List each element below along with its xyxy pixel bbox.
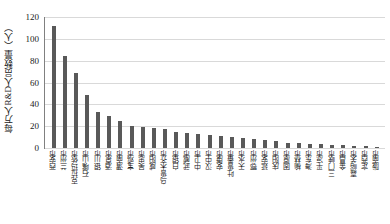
x-label-slot: 延安市 — [260, 150, 271, 224]
x-label-slot: 陇南市 — [371, 150, 382, 224]
bar[interactable] — [208, 135, 212, 148]
bar-slot — [193, 17, 204, 148]
bar[interactable] — [308, 144, 312, 148]
y-axis-tick-label: 20 — [30, 122, 39, 131]
bar-slot — [159, 17, 170, 148]
bar[interactable] — [241, 138, 245, 148]
x-label-slot: 克拉玛依市 — [70, 150, 81, 224]
bar[interactable] — [263, 140, 267, 148]
x-label-slot: 宝鸡市 — [126, 150, 137, 224]
x-axis-tick-label: 陇南市 — [373, 150, 380, 170]
x-axis-tick-label: 吐鲁番市 — [228, 150, 235, 177]
x-label-slot: 白银市 — [171, 150, 182, 224]
bar[interactable] — [152, 128, 156, 148]
bar-slot — [104, 17, 115, 148]
bar[interactable] — [163, 129, 167, 148]
bar[interactable] — [96, 112, 100, 148]
x-label-slot: 汉中市 — [204, 150, 215, 224]
x-axis-tick-label: 安康市 — [217, 150, 224, 170]
x-label-slot: 定西市 — [360, 150, 371, 224]
bar-slot — [349, 17, 360, 148]
y-axis-tick-label: 120 — [26, 13, 40, 22]
x-axis-tick-label: 宝鸡市 — [128, 150, 135, 170]
bar-slot — [204, 17, 215, 148]
bar-slot — [304, 17, 315, 148]
y-axis-tick-label: 60 — [30, 78, 39, 87]
bar-slot — [315, 17, 326, 148]
bar-slot — [215, 17, 226, 148]
bar[interactable] — [274, 141, 278, 148]
bar[interactable] — [185, 133, 189, 148]
bar-slot — [226, 17, 237, 148]
bar[interactable] — [118, 121, 122, 148]
x-label-slot: 嘉峪关市 — [349, 150, 360, 224]
bar-slot — [293, 17, 304, 148]
bar[interactable] — [341, 145, 345, 148]
bar-slot — [48, 17, 59, 148]
bar[interactable] — [141, 127, 145, 148]
bar[interactable] — [252, 139, 256, 148]
x-label-slot: 鄂州市 — [249, 150, 260, 224]
x-axis-tick-label: 金昌市 — [340, 150, 347, 170]
bar[interactable] — [352, 146, 356, 148]
bar-slot — [81, 17, 92, 148]
x-label-slot: 榆林市 — [293, 150, 304, 224]
bar[interactable] — [230, 137, 234, 148]
x-axis-tick-label: 榆林市 — [295, 150, 302, 170]
bar-slot — [115, 17, 126, 148]
bar-slot — [171, 17, 182, 148]
x-label-slot: 平凉市 — [315, 150, 326, 224]
bar-slot — [70, 17, 81, 148]
bar[interactable] — [52, 26, 56, 148]
x-axis-tick-label: 渭南市 — [117, 150, 124, 170]
x-label-slot: 石嘴山市 — [81, 150, 92, 224]
x-label-slot: 安康市 — [215, 150, 226, 224]
bar-slot — [126, 17, 137, 148]
bar[interactable] — [219, 136, 223, 148]
bar[interactable] — [364, 146, 368, 148]
bar[interactable] — [375, 147, 379, 148]
x-axis-tick-label: 延安市 — [262, 150, 269, 170]
x-axis-tick-label: 三门峡市 — [329, 150, 336, 177]
bar-slot — [148, 17, 159, 148]
x-axis-tick-label: 咸阳市 — [150, 150, 157, 170]
x-axis-tick-label: 白银市 — [173, 150, 180, 170]
bar[interactable] — [74, 73, 78, 148]
x-axis-tick-labels: 西安市兰州市克拉玛依市石嘴山市银川市酒泉市渭南市宝鸡市吴忠市咸阳市乌鲁木齐市白银… — [45, 150, 385, 224]
bar-slot — [237, 17, 248, 148]
y-axis-tick-labels: 120100806040200 — [16, 0, 42, 155]
x-label-slot: 酒泉市 — [104, 150, 115, 224]
x-axis-tick-label: 银川市 — [95, 150, 102, 170]
x-label-slot: 西安市 — [48, 150, 59, 224]
bar[interactable] — [286, 143, 290, 148]
x-axis-tick-label: 平凉市 — [317, 150, 324, 170]
y-axis-tick-label: 80 — [30, 56, 39, 65]
bar-slot — [93, 17, 104, 148]
bar[interactable] — [85, 95, 89, 148]
x-axis-tick-label: 汉中市 — [206, 150, 213, 170]
x-axis-tick-label: 海东市 — [306, 150, 313, 170]
bar[interactable] — [297, 143, 301, 148]
bar-slot — [271, 17, 282, 148]
bar-slot — [137, 17, 148, 148]
x-axis-tick-label: 兰州市 — [61, 150, 68, 170]
bar[interactable] — [63, 56, 67, 148]
x-label-slot: 海东市 — [304, 150, 315, 224]
bar-slot — [360, 17, 371, 148]
x-axis-tick-label: 乌鲁木齐市 — [161, 150, 168, 184]
bar-slot — [371, 17, 382, 148]
bar[interactable] — [174, 132, 178, 148]
bar-slot — [182, 17, 193, 148]
bar[interactable] — [319, 144, 323, 148]
bar-slot — [59, 17, 70, 148]
x-label-slot: 渭南市 — [115, 150, 126, 224]
bar[interactable] — [196, 134, 200, 148]
bar[interactable] — [130, 126, 134, 148]
y-axis-title-text: 每万人R&D人员数量（人） — [4, 23, 13, 133]
bar[interactable] — [330, 145, 334, 148]
bar[interactable] — [107, 116, 111, 148]
bar-chart: 每万人R&D人员数量（人） 120100806040200 西安市兰州市克拉玛依… — [0, 0, 390, 224]
x-axis-tick-label: 固原市 — [284, 150, 291, 170]
x-label-slot: 金昌市 — [338, 150, 349, 224]
x-label-slot: 庆阳市 — [271, 150, 282, 224]
